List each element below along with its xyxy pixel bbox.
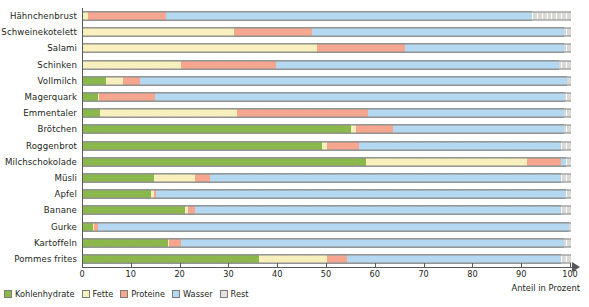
legend-swatch-icon: [120, 290, 128, 298]
bar-segment-proteine: [234, 29, 312, 36]
bar-segment-kohlenhydrate: [83, 158, 366, 165]
x-axis-line: [82, 267, 579, 268]
x-tick: [472, 263, 473, 268]
bar-segment-fette: [100, 110, 237, 117]
bar-row: [83, 121, 571, 137]
legend: KohlenhydrateFetteProteineWasserRest: [4, 289, 248, 299]
x-tick: [277, 263, 278, 268]
legend-label: Wasser: [183, 289, 213, 299]
x-tick-label: 60: [370, 269, 380, 279]
bar-segment-wasser: [166, 13, 532, 20]
legend-label: Kohlenhydrate: [15, 289, 75, 299]
bar-segment-proteine: [99, 94, 155, 101]
bar-segment-proteine: [195, 174, 210, 181]
bar-segment-kohlenhydrate: [83, 207, 185, 214]
category-label: Kartoffeln: [14, 235, 80, 251]
bar-segment-proteine: [527, 158, 561, 165]
bar-segment-kohlenhydrate: [83, 255, 259, 262]
bar-row: [83, 251, 571, 267]
x-tick: [82, 263, 83, 268]
chart-root: Nahrungsmittel (jeweils 100 g) Hähnchenb…: [0, 0, 589, 307]
bar-row: [83, 218, 571, 234]
x-tick: [180, 263, 181, 268]
stacked-bar: [83, 222, 569, 231]
bar-segment-wasser: [312, 29, 563, 36]
bar-segment-fette: [83, 45, 317, 52]
stacked-bar: [83, 206, 561, 215]
category-label: Schweinekotelett: [14, 24, 80, 40]
category-label: Banane: [14, 202, 80, 218]
category-label: Emmentaler: [14, 105, 80, 121]
stacked-bar: [83, 173, 561, 182]
stacked-bar: [83, 190, 566, 199]
stacked-bar: [83, 93, 565, 102]
category-label: Pommes frites: [14, 251, 80, 267]
bar-segment-wasser: [276, 61, 559, 68]
x-tick-label: 70: [418, 269, 428, 279]
stacked-bar: [83, 125, 564, 134]
bar-segment-kohlenhydrate: [83, 126, 351, 133]
category-label: Magerquark: [14, 89, 80, 105]
bar-row: [83, 186, 571, 202]
stacked-bar: [83, 28, 564, 37]
stacked-bar: [83, 157, 566, 166]
bar-segment-fette: [259, 255, 327, 262]
bar-row: [83, 57, 571, 73]
bar-segment-wasser: [210, 174, 561, 181]
stacked-bar: [83, 76, 567, 85]
x-tick-label: 90: [516, 269, 526, 279]
stacked-bar: [83, 60, 559, 69]
category-label: Milchschokolade: [14, 154, 80, 170]
category-label: Gurke: [14, 218, 80, 234]
bar-segment-kohlenhydrate: [83, 142, 322, 149]
bar-row: [83, 235, 571, 251]
x-tick: [521, 263, 522, 268]
legend-swatch-icon: [4, 290, 12, 298]
bar-segment-kohlenhydrate: [83, 94, 98, 101]
bar-segment-kohlenhydrate: [83, 110, 100, 117]
bar-segment-wasser: [155, 94, 565, 101]
bar-segment-kohlenhydrate: [83, 174, 154, 181]
bar-row: [83, 170, 571, 186]
bar-segment-proteine: [317, 45, 405, 52]
bar-rows: [83, 8, 571, 267]
bar-segment-proteine: [188, 207, 195, 214]
x-tick-label: 10: [126, 269, 136, 279]
category-label: Müsli: [14, 170, 80, 186]
legend-swatch-icon: [172, 290, 180, 298]
bar-row: [83, 73, 571, 89]
bar-segment-kohlenhydrate: [83, 77, 106, 84]
bar-segment-wasser: [347, 255, 562, 262]
bar-segment-fette: [83, 29, 234, 36]
bar-segment-proteine: [123, 77, 140, 84]
x-axis-title: Anteil in Prozent: [511, 283, 580, 293]
legend-label: Rest: [231, 289, 249, 299]
bar-row: [83, 154, 571, 170]
bar-row: [83, 202, 571, 218]
stacked-bar: [83, 141, 561, 150]
bar-row: [83, 24, 571, 40]
x-tick-label: 100: [562, 269, 578, 279]
stacked-bar: [83, 44, 564, 53]
x-tick: [375, 263, 376, 268]
stacked-bar: [83, 238, 564, 247]
stacked-bar: [83, 12, 532, 21]
plot-area: [82, 8, 571, 267]
category-label: Apfel: [14, 186, 80, 202]
bar-segment-proteine: [88, 13, 166, 20]
category-label: Salami: [14, 40, 80, 56]
x-tick-label: 80: [467, 269, 477, 279]
bar-segment-proteine: [327, 255, 347, 262]
bar-segment-fette: [366, 158, 527, 165]
bar-row: [83, 138, 571, 154]
bar-row: [83, 40, 571, 56]
bar-segment-kohlenhydrate: [83, 239, 168, 246]
legend-item: Rest: [220, 289, 249, 299]
x-tick-label: 50: [321, 269, 331, 279]
stacked-bar: [83, 109, 564, 118]
bar-row: [83, 8, 571, 24]
bar-segment-proteine: [356, 126, 393, 133]
category-label: Roggenbrot: [14, 138, 80, 154]
bar-segment-wasser: [181, 239, 564, 246]
x-tick: [131, 263, 132, 268]
